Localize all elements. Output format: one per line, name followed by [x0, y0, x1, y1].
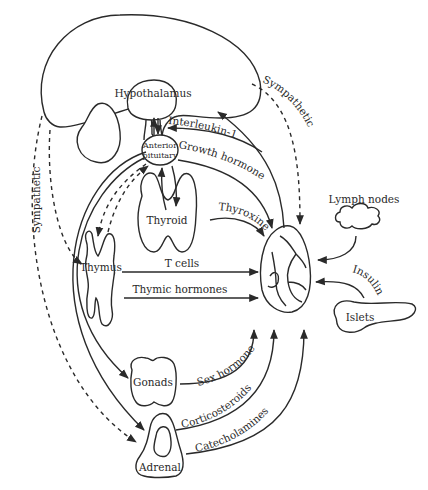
sympathetic-left-label: Sympathetic — [30, 167, 42, 234]
growth-hormone-label: Growth hormone — [178, 138, 268, 181]
hypothalamus-label: Hypothalamus — [114, 87, 191, 99]
sympathetic-right-label: Sympathetic — [261, 73, 317, 129]
lymph-nodes-shape — [336, 204, 380, 229]
insulin-label: Insulin — [351, 262, 387, 296]
thymus-shape — [86, 231, 115, 326]
thyroid: Thyroid — [138, 173, 197, 252]
islets: Islets — [334, 301, 415, 332]
gonads-label: Gonads — [133, 376, 173, 388]
spleen — [261, 226, 311, 313]
spleen-shape — [261, 226, 311, 313]
sex-hormone-label: Sex hormone — [195, 342, 256, 388]
anterior-pituitary: Anterior pituitary — [142, 135, 178, 165]
gonads: Gonads — [131, 357, 176, 405]
anterior-pituitary-shape — [142, 135, 178, 165]
lymph-nodes-label: Lymph nodes — [329, 193, 400, 205]
islets-label: Islets — [346, 311, 375, 323]
adrenal: Adrenal — [136, 414, 183, 478]
insulin-arrow — [316, 282, 364, 298]
thyroid-label: Thyroid — [146, 214, 187, 226]
sympathetic-left-thymus-path — [49, 130, 82, 264]
t-cells-label: T cells — [165, 257, 200, 269]
hypothalamus-shape — [127, 80, 176, 120]
thymic-hormones-label: Thymic hormones — [133, 283, 228, 295]
thyroxine-label: Thyroxine — [218, 200, 273, 233]
anterior-pituitary-label-1: Anterior — [142, 141, 177, 150]
thyroid-shape — [138, 173, 197, 252]
lymph-nodes-to-spleen-arrow — [318, 236, 356, 260]
lymph-nodes: Lymph nodes — [329, 193, 400, 229]
neuroendocrine-immune-diagram: Hypothalamus Anterior pituitary Thyroid … — [0, 0, 428, 490]
anterior-pituitary-label-2: pituitary — [143, 151, 178, 160]
thymus: Thymus — [80, 231, 122, 326]
adrenal-label: Adrenal — [138, 461, 182, 473]
thymus-label: Thymus — [80, 261, 122, 273]
